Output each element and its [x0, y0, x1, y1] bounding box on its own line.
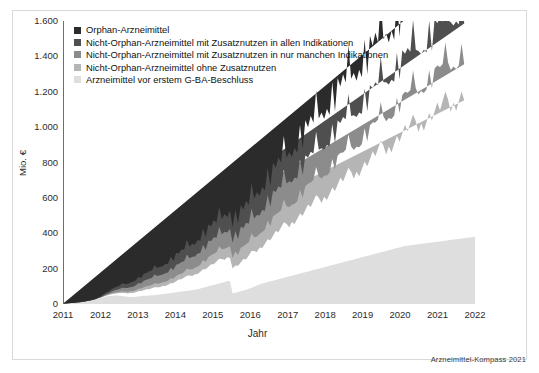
legend-item-label: Arzneimittel vor erstem G-BA-Beschluss [86, 75, 253, 84]
legend-swatch-icon [74, 39, 81, 46]
source-credit: Arzneimittel-Kompass 2021 [431, 355, 526, 364]
chart-legend: Orphan-ArzneimittelNicht-Orphan-Arzneimi… [74, 24, 454, 86]
legend-item-label: Nicht-Orphan-Arzneimittel ohne Zusatznut… [86, 63, 276, 72]
legend-item: Nicht-Orphan-Arzneimittel mit Zusatznutz… [74, 36, 454, 48]
x-tick-label: 2015 [202, 310, 223, 320]
y-tick-label: 1.600 [34, 16, 58, 26]
legend-swatch-icon [74, 76, 81, 83]
y-tick-label: 400 [42, 229, 58, 239]
x-tick-label: 2013 [127, 310, 148, 320]
legend-swatch-icon [74, 64, 81, 71]
legend-item: Orphan-Arzneimittel [74, 24, 454, 36]
legend-item: Nicht-Orphan-Arzneimittel mit Zusatznutz… [74, 49, 454, 61]
y-axis-tick-labels: 02004006008001.0001.2001.4001.600 [0, 21, 58, 304]
x-tick-label: 2017 [277, 310, 298, 320]
x-tick-label: 2014 [165, 310, 186, 320]
x-tick-label: 2011 [53, 310, 73, 320]
legend-item-label: Orphan-Arzneimittel [86, 25, 169, 34]
x-axis-label: Jahr [0, 328, 515, 339]
y-tick-label: 200 [42, 264, 58, 274]
legend-swatch-icon [74, 51, 81, 58]
legend-item-label: Nicht-Orphan-Arzneimittel mit Zusatznutz… [86, 38, 353, 47]
y-tick-label: 1.200 [34, 87, 58, 97]
x-tick-label: 2020 [390, 310, 411, 320]
x-axis-tick-labels: 2011201220132014201520162017201820192020… [63, 310, 475, 324]
y-tick-label: 1.400 [34, 52, 58, 62]
x-tick-label: 2018 [315, 310, 336, 320]
legend-item: Nicht-Orphan-Arzneimittel ohne Zusatznut… [74, 61, 454, 73]
legend-swatch-icon [74, 27, 81, 34]
x-tick-label: 2019 [352, 310, 373, 320]
x-tick-label: 2012 [90, 310, 111, 320]
y-tick-label: 0 [53, 299, 58, 309]
y-tick-label: 600 [42, 193, 58, 203]
legend-item: Arzneimittel vor erstem G-BA-Beschluss [74, 74, 454, 86]
chart-figure: Mio. € 02004006008001.0001.2001.4001.600… [0, 0, 539, 373]
x-tick-label: 2022 [464, 310, 485, 320]
legend-item-label: Nicht-Orphan-Arzneimittel mit Zusatznutz… [86, 50, 388, 59]
x-tick-label: 2016 [240, 310, 261, 320]
y-tick-label: 800 [42, 158, 58, 168]
x-tick-label: 2021 [427, 310, 448, 320]
y-tick-label: 1.000 [34, 122, 58, 132]
